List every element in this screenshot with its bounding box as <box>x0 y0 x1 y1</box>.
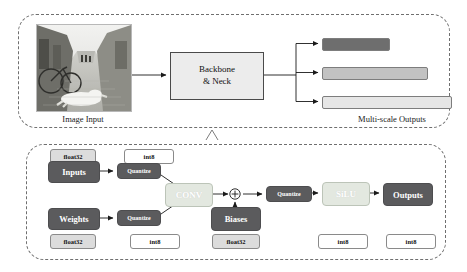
tag-outputs-dtype: int8 <box>386 234 436 249</box>
node-silu: SiLU <box>322 182 370 206</box>
street-photo-illustration <box>37 25 131 111</box>
node-quantize-weights: Quantize <box>117 210 161 226</box>
output-bar-large <box>322 96 452 109</box>
image-input-caption: Image Input <box>36 114 130 124</box>
multi-scale-outputs-caption: Multi-scale Outputs <box>330 114 454 124</box>
tag-biases-dtype: float32 <box>212 234 260 249</box>
tag-weights-dtype: float32 <box>50 234 96 249</box>
node-outputs: Outputs <box>383 183 433 206</box>
node-quantize-mid: Quantize <box>266 186 312 202</box>
node-conv: CONV <box>165 183 213 207</box>
tag-quantized-inputs-dtype: int8 <box>124 149 174 164</box>
zoom-caret-icon <box>206 130 218 140</box>
backbone-neck-block: Backbone & Neck <box>170 52 264 100</box>
node-weights: Weights <box>48 208 100 230</box>
tag-silu-input-dtype: int8 <box>318 234 368 249</box>
backbone-label-line1: Backbone <box>199 64 235 76</box>
input-image <box>36 24 132 112</box>
backbone-label-line2: & Neck <box>199 76 235 88</box>
tag-quantized-weights-dtype: int8 <box>130 234 180 249</box>
output-bar-small <box>322 38 390 51</box>
diagram-root: Image Input Backbone & Neck Multi-scale … <box>0 0 467 272</box>
node-quantize-inputs: Quantize <box>117 163 161 179</box>
node-inputs: Inputs <box>48 161 100 183</box>
output-bar-medium <box>322 67 428 80</box>
node-biases: Biases <box>211 207 261 231</box>
